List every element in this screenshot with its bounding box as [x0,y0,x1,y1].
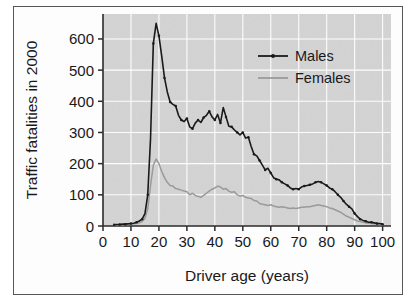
y-tick-label: 100 [69,186,94,203]
data-point-marker [197,119,200,122]
y-tick-label: 400 [69,93,94,110]
data-point-marker [376,222,379,225]
x-tick-label: 50 [234,233,251,250]
y-tick-label: 500 [69,62,94,79]
data-point-marker [370,221,373,224]
legend-label-females: Females [295,70,351,86]
y-tick-label: 300 [69,124,94,141]
data-point-marker [320,181,323,184]
data-point-marker [286,184,289,187]
data-point-marker [275,178,278,181]
data-point-marker [146,194,149,197]
data-point-marker [214,119,217,122]
data-point-marker [141,218,144,221]
data-point-marker [113,224,116,227]
data-point-marker [281,181,284,184]
legend-label-males: Males [295,48,334,64]
figure-container: 0100200300400500600 01020304050607080901… [0,0,417,308]
data-point-marker [119,223,122,226]
data-point-marker [186,117,189,120]
y-tick-label: 600 [69,30,94,47]
data-point-marker [303,185,306,188]
y-tick-label: 200 [69,155,94,172]
data-point-marker [158,35,161,38]
data-point-marker [135,221,138,224]
data-point-marker [242,131,245,134]
x-tick-label: 60 [262,233,279,250]
data-point-marker [174,105,177,108]
x-tick-label: 0 [99,233,107,250]
x-tick-label: 10 [123,233,140,250]
data-point-marker [331,188,334,191]
data-point-marker [348,205,351,208]
data-point-marker [353,212,356,215]
data-point-marker [342,200,345,203]
data-point-marker [253,153,256,156]
data-point-marker [264,169,267,172]
data-point-marker [247,136,250,139]
data-point-marker [191,127,194,130]
y-tick-label: 0 [86,218,94,235]
data-point-marker [225,116,228,119]
x-tick-label: 80 [318,233,335,250]
data-point-marker [230,126,233,129]
traffic-fatalities-line-chart: 0100200300400500600 01020304050607080901… [0,0,417,308]
data-point-marker [359,218,362,221]
data-point-marker [130,222,133,225]
data-point-marker [152,42,155,45]
plot-area-noise-overlay [103,14,391,226]
data-point-marker [297,188,300,191]
x-axis-tick-labels: 0102030405060708090100 [99,233,395,250]
data-point-marker [124,223,127,226]
data-point-marker [337,194,340,197]
y-axis-tick-labels: 0100200300400500600 [69,30,94,234]
x-tick-label: 90 [346,233,363,250]
x-tick-label: 100 [370,233,395,250]
data-point-marker [236,131,239,134]
data-point-marker [208,110,211,113]
data-point-marker [169,101,172,104]
x-tick-label: 30 [179,233,196,250]
data-point-marker [202,116,205,119]
data-point-marker [292,188,295,191]
data-point-marker [258,159,261,162]
data-point-marker [325,184,328,187]
data-point-marker [180,119,183,122]
legend-marker-males [271,54,275,58]
data-point-marker [270,172,273,175]
x-tick-label: 40 [207,233,224,250]
x-axis-title: Driver age (years) [185,267,309,284]
y-axis-title: Traffic fatalities in 2000 [23,40,40,199]
x-tick-label: 20 [151,233,168,250]
data-point-marker [381,223,384,226]
data-point-marker [309,184,312,187]
data-point-marker [163,77,166,80]
data-point-marker [365,220,368,223]
x-tick-label: 70 [290,233,307,250]
data-point-marker [219,122,222,125]
data-point-marker [314,181,317,184]
